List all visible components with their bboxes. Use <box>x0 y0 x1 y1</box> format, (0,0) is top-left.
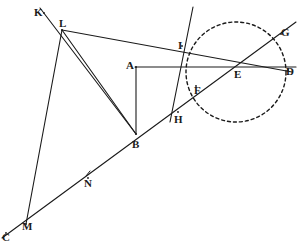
segments-group <box>2 7 296 238</box>
point-label-b: B <box>132 139 139 150</box>
point-label-l: L <box>59 18 66 29</box>
point-marker-l <box>61 29 63 31</box>
segment-L-M <box>26 30 62 224</box>
point-label-f: F <box>194 85 201 96</box>
segment-L-D <box>62 30 292 72</box>
diagram-canvas: KLABCMNHFIEDG <box>0 0 304 245</box>
point-label-e: E <box>234 69 241 80</box>
point-label-d: D <box>286 66 294 77</box>
segment-I-H <box>170 7 193 122</box>
point-marker-a <box>135 66 137 68</box>
point-label-h: H <box>174 114 183 125</box>
point-marker-b <box>135 133 137 135</box>
segment-L-B <box>62 30 136 134</box>
point-label-a: A <box>126 60 134 71</box>
point-label-c: C <box>2 232 10 243</box>
geometry-figure <box>0 0 304 245</box>
point-marker-k <box>43 12 45 14</box>
point-label-i: I <box>178 40 182 51</box>
point-label-k: K <box>34 7 43 18</box>
point-label-n: N <box>84 178 92 189</box>
segment-C-G <box>2 22 296 238</box>
point-label-g: G <box>281 27 290 38</box>
point-label-m: M <box>22 221 32 232</box>
